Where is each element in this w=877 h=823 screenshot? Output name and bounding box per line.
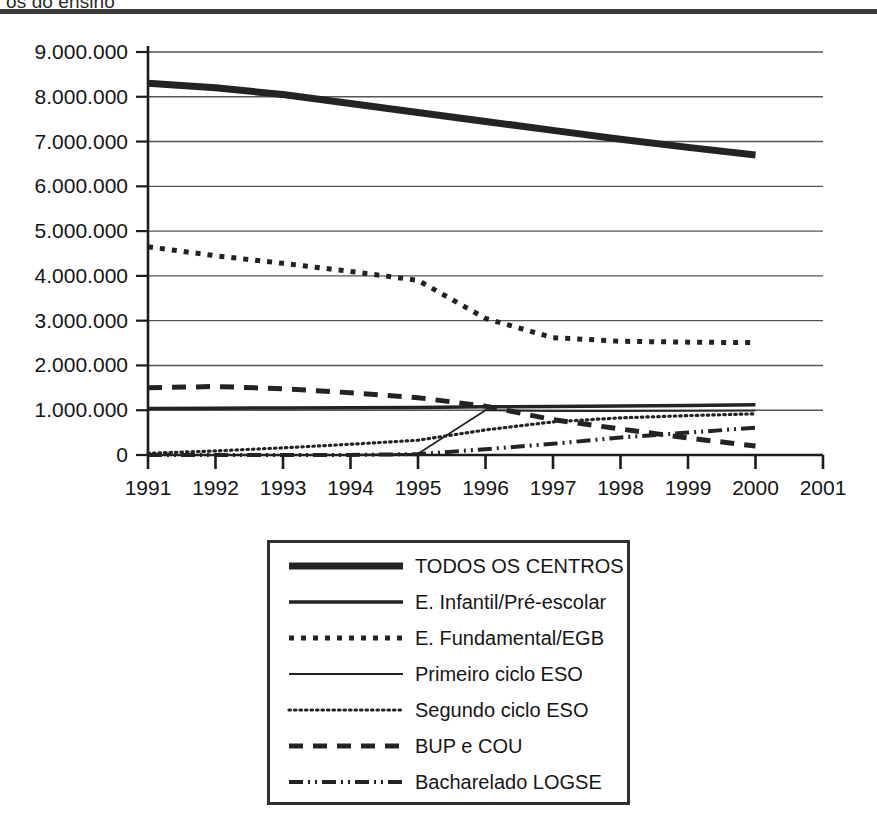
legend-item: E. Fundamental/EGB (270, 623, 627, 653)
legend-item: BUP e COU (270, 731, 627, 761)
y-axis-tick-label: 9.000.000 (0, 41, 128, 62)
legend-line-swatch (287, 659, 405, 689)
series-line (148, 247, 756, 343)
legend-label: Primeiro ciclo ESO (415, 659, 583, 689)
legend-label: Segundo ciclo ESO (415, 695, 588, 725)
y-axis-tick-label: 8.000.000 (0, 86, 128, 107)
legend-item: TODOS OS CENTROS (270, 551, 627, 581)
legend-line-swatch (287, 623, 405, 653)
legend-line-swatch (287, 695, 405, 725)
series-line (148, 405, 756, 409)
legend-label: BUP e COU (415, 731, 522, 761)
y-axis-ticks (136, 52, 148, 455)
series-line (148, 83, 756, 155)
chart-svg (0, 0, 877, 500)
legend-label: E. Fundamental/EGB (415, 623, 604, 653)
line-chart-plot: 01.000.0002.000.0003.000.0004.000.0005.0… (0, 0, 877, 500)
legend-line-swatch (287, 587, 405, 617)
legend-item: Primeiro ciclo ESO (270, 659, 627, 689)
y-axis-tick-label: 2.000.000 (0, 354, 128, 375)
x-axis-tick-label: 2001 (783, 477, 863, 498)
y-axis-tick-label: 4.000.000 (0, 265, 128, 286)
chart-legend: TODOS OS CENTROSE. Infantil/Pré-escolarE… (267, 540, 630, 805)
y-axis-tick-label: 1.000.000 (0, 399, 128, 420)
y-axis-tick-label: 5.000.000 (0, 220, 128, 241)
legend-label: Bacharelado LOGSE (415, 767, 602, 797)
legend-item: Segundo ciclo ESO (270, 695, 627, 725)
x-axis-ticks (148, 455, 823, 469)
legend-label: TODOS OS CENTROS (415, 551, 624, 581)
legend-item: Bacharelado LOGSE (270, 767, 627, 797)
y-axis-tick-label: 7.000.000 (0, 131, 128, 152)
chart-page: os do ensino 01.000.0002.000.0003.000.00… (0, 0, 877, 823)
y-axis-tick-label: 3.000.000 (0, 310, 128, 331)
legend-line-swatch (287, 731, 405, 761)
series-line (148, 414, 756, 453)
data-series-group (148, 83, 756, 455)
y-axis-tick-label: 0 (0, 444, 128, 465)
axis-lines (148, 46, 823, 455)
legend-line-swatch (287, 767, 405, 797)
legend-label: E. Infantil/Pré-escolar (415, 587, 606, 617)
gridlines (148, 52, 823, 410)
legend-item: E. Infantil/Pré-escolar (270, 587, 627, 617)
y-axis-tick-label: 6.000.000 (0, 175, 128, 196)
legend-line-swatch (287, 551, 405, 581)
